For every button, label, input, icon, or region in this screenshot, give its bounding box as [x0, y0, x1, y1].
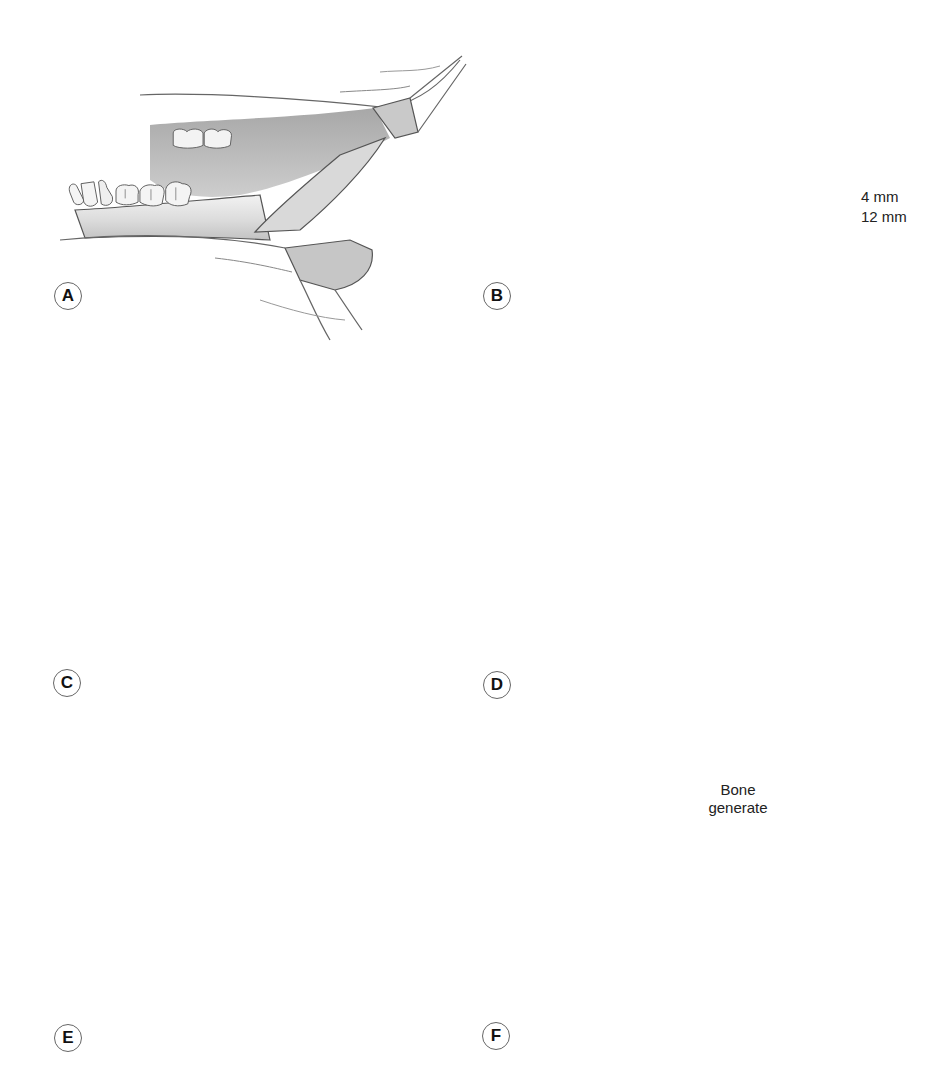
panel-label-d: D: [483, 671, 511, 699]
figure: 4 mm 12 mm Bone generate A B C D E F: [0, 0, 941, 1091]
panel-label-f: F: [482, 1022, 510, 1050]
panel-label-c: C: [53, 669, 81, 697]
panel-label-a: A: [54, 282, 82, 310]
panel-label-e: E: [54, 1024, 82, 1052]
figure-canvas: [0, 0, 941, 1091]
regenerate-label: Bone generate: [700, 781, 776, 817]
panel-label-b: B: [483, 282, 511, 310]
measure-label-12mm: 12 mm: [861, 208, 907, 225]
measure-label-4mm: 4 mm: [861, 188, 899, 205]
regenerate-label-line2: generate: [700, 799, 776, 817]
panel-a-illustration: [60, 56, 466, 340]
regenerate-label-line1: Bone: [700, 781, 776, 799]
